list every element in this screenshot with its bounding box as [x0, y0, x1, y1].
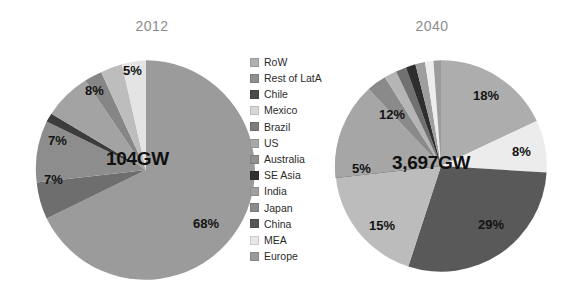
- legend-swatch-icon: [250, 236, 259, 245]
- legend-item-row[interactable]: India: [250, 184, 334, 200]
- slice-label-2012-europe: 68%: [193, 216, 219, 231]
- legend-item-row[interactable]: MEA: [250, 232, 334, 248]
- legend-label: India: [264, 186, 287, 197]
- pie-title-2040: 2040: [387, 18, 477, 34]
- legend-swatch-icon: [250, 139, 259, 148]
- legend-label: Australia: [264, 154, 305, 165]
- legend-item-row[interactable]: US: [250, 135, 334, 151]
- slice-label-2040-row: 18%: [473, 88, 499, 103]
- slice-label-2040-mexico: 15%: [369, 218, 395, 233]
- legend-label: Japan: [264, 203, 293, 214]
- pie-center-total-2012: 104GW: [106, 148, 169, 170]
- legend-swatch-icon: [250, 203, 259, 212]
- slice-label-2012-china: 8%: [85, 83, 104, 98]
- pie-title-2012: 2012: [107, 18, 197, 34]
- pie-svg-2012: [34, 58, 258, 282]
- legend-swatch-icon: [250, 155, 259, 164]
- legend-swatch-icon: [250, 90, 259, 99]
- legend-label: SE Asia: [264, 170, 301, 181]
- legend-swatch-icon: [250, 106, 259, 115]
- pie-center-total-2040: 3,697GW: [392, 152, 470, 174]
- legend-label: Chile: [264, 89, 288, 100]
- slice-label-2012-australia: 7%: [44, 172, 63, 187]
- legend-item-row[interactable]: SE Asia: [250, 167, 334, 183]
- slice-label-2040-restoflata: 8%: [512, 144, 531, 159]
- legend-swatch-icon: [250, 74, 259, 83]
- legend: RoW Rest of LatA Chile Mexico Brazil US …: [250, 54, 334, 264]
- pie-chart-2012: [34, 58, 258, 282]
- slice-label-2012-mea: 5%: [123, 63, 142, 78]
- pie-chart-figure: 2012 104GW 68% 7% 7% 8% 5% RoW: [0, 0, 578, 300]
- legend-item-row[interactable]: Europe: [250, 248, 334, 264]
- legend-label: Europe: [264, 251, 298, 262]
- legend-swatch-icon: [250, 58, 259, 67]
- legend-item-row[interactable]: Mexico: [250, 103, 334, 119]
- legend-label: US: [264, 138, 279, 149]
- legend-swatch-icon: [250, 252, 259, 261]
- slice-label-2040-brazil: 5%: [352, 161, 371, 176]
- legend-label: Brazil: [264, 122, 290, 133]
- legend-swatch-icon: [250, 122, 259, 131]
- legend-swatch-icon: [250, 187, 259, 196]
- legend-item-row[interactable]: Australia: [250, 151, 334, 167]
- legend-item-row[interactable]: RoW: [250, 54, 334, 70]
- slice-label-2040-us: 12%: [379, 107, 405, 122]
- legend-label: RoW: [264, 57, 287, 68]
- slice-label-2012-us: 7%: [48, 133, 67, 148]
- legend-label: China: [264, 219, 291, 230]
- legend-swatch-icon: [250, 219, 259, 228]
- legend-label: Rest of LatA: [264, 73, 322, 84]
- legend-item-row[interactable]: Chile: [250, 86, 334, 102]
- legend-swatch-icon: [250, 171, 259, 180]
- legend-item-row[interactable]: China: [250, 216, 334, 232]
- legend-label: Mexico: [264, 105, 297, 116]
- slice-label-2040-chile: 29%: [478, 217, 504, 232]
- legend-label: MEA: [264, 235, 287, 246]
- legend-item-row[interactable]: Japan: [250, 200, 334, 216]
- legend-item-row[interactable]: Brazil: [250, 119, 334, 135]
- legend-item-row[interactable]: Rest of LatA: [250, 70, 334, 86]
